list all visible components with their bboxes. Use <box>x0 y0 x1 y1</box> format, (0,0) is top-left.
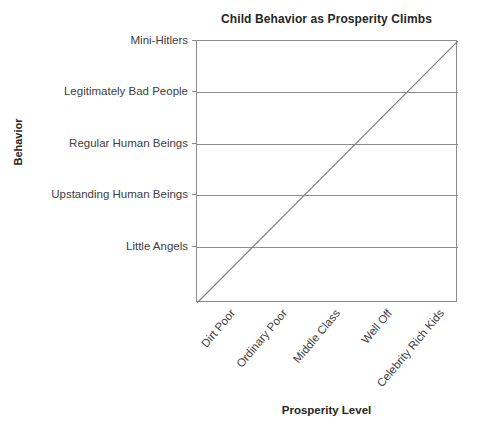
x-tick-label-ordinary-poor: Ordinary Poor <box>227 307 290 378</box>
x-axis-title: Prosperity Level <box>196 404 457 416</box>
x-axis-labels: Dirt Poor Ordinary Poor Middle Class Wel… <box>0 0 482 439</box>
x-tick-label-middle-class: Middle Class <box>281 307 342 377</box>
x-tick-label-well-off: Well Off <box>348 307 394 359</box>
chart-container: Child Behavior as Prosperity Climbs Beha… <box>0 0 482 439</box>
x-tick-label-dirt-poor: Dirt Poor <box>191 307 237 359</box>
